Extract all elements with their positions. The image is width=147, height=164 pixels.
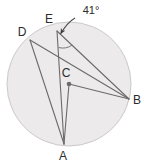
point-label-C: C: [62, 66, 71, 80]
point-label-E: E: [45, 12, 53, 26]
point-label-B: B: [133, 93, 141, 107]
geometry-canvas: D E B A C 41°: [0, 0, 147, 164]
point-label-A: A: [59, 149, 67, 163]
center-point-marker: [67, 82, 72, 87]
point-label-D: D: [18, 25, 27, 39]
angle-value-label: 41°: [83, 4, 100, 16]
geometry-diagram: D E B A C 41°: [0, 0, 147, 164]
